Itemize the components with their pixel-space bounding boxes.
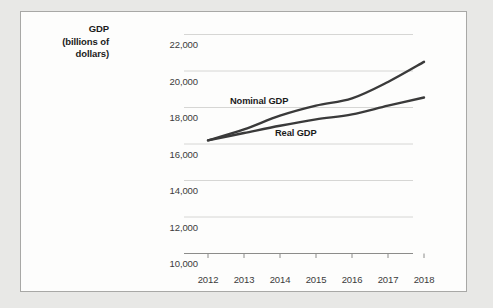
gridlines xyxy=(184,35,413,218)
gdp-line-chart: GDP (billions of dollars) 22,000 20,000 … xyxy=(21,12,468,293)
plot-svg xyxy=(21,12,468,293)
series-line-real-gdp xyxy=(208,97,424,140)
x-axis-ticks xyxy=(208,254,424,259)
series-line-nominal-gdp xyxy=(208,62,424,140)
figure-panel: GDP (billions of dollars) 22,000 20,000 … xyxy=(20,11,467,292)
